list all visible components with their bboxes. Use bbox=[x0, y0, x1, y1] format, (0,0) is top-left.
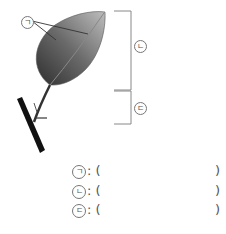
bracket-petiole bbox=[114, 91, 131, 124]
petiole bbox=[34, 85, 50, 122]
label-c-marker: ㄷ bbox=[134, 102, 147, 115]
bracket-blade bbox=[114, 11, 131, 90]
label-a-marker: ㄱ bbox=[21, 16, 34, 29]
answer-row-c: ㄷ: ( ) bbox=[72, 202, 222, 218]
label-b-marker: ㄴ bbox=[134, 40, 147, 53]
leaf-diagram: ㄱ ㄴ ㄷ bbox=[0, 0, 226, 160]
answer-row-b: ㄴ: ( ) bbox=[72, 183, 222, 199]
answer-row-a: ㄱ: ( ) bbox=[72, 163, 222, 179]
leaf-illustration bbox=[0, 0, 226, 160]
leaf-blade bbox=[36, 12, 105, 86]
